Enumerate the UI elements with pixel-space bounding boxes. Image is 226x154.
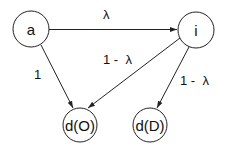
node-dD: d(D) bbox=[133, 108, 167, 142]
edge-label-i-dO: 1 - λ bbox=[103, 52, 132, 67]
node-dD-label: d(D) bbox=[135, 117, 164, 134]
edge-i-to-dO bbox=[88, 38, 180, 108]
edge-label-a-dO: 1 bbox=[34, 67, 41, 82]
edge-a-to-dO bbox=[41, 45, 73, 108]
node-i-label: i bbox=[194, 22, 197, 39]
node-a: a bbox=[13, 11, 49, 47]
edge-label-i-dD: 1 - λ bbox=[180, 73, 209, 88]
node-a-label: a bbox=[27, 21, 36, 38]
diagram-canvas: λ 1 1 - λ 1 - λ a i d(O) d(D) bbox=[0, 0, 226, 154]
node-dO: d(O) bbox=[63, 108, 97, 142]
edge-label-a-i: λ bbox=[103, 7, 110, 22]
node-i: i bbox=[178, 12, 214, 48]
node-dO-label: d(O) bbox=[65, 117, 95, 134]
